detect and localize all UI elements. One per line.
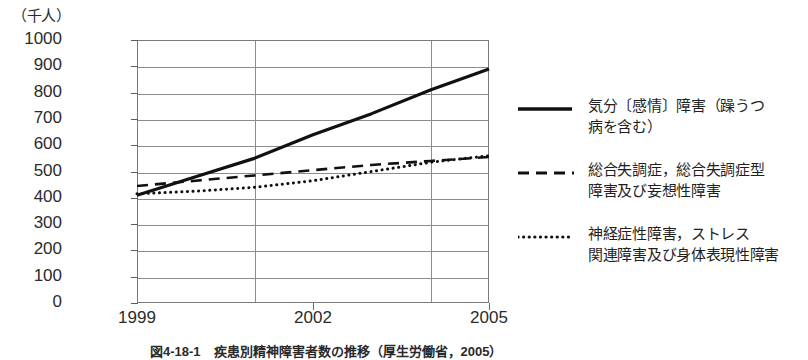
figure-caption: 図4-18-1 疾患別精神障害者数の推移（厚生労働省，2005） bbox=[150, 341, 790, 360]
legend-row: 気分〔感情〕障害（躁うつ 病を含む） bbox=[515, 95, 808, 137]
y-axis-tick-label: 500 bbox=[4, 161, 62, 181]
y-axis-tick-label: 300 bbox=[4, 213, 62, 233]
series-line-dotted bbox=[137, 156, 489, 194]
x-axis-tick-mark bbox=[313, 303, 314, 310]
legend-label: 気分〔感情〕障害（躁うつ 病を含む） bbox=[588, 95, 808, 137]
legend-row: 神経症性障害，ストレス 関連障害及び身体表現性障害 bbox=[515, 223, 808, 265]
x-axis-tick-label: 2002 bbox=[268, 308, 358, 328]
y-axis-tick-label: 1000 bbox=[4, 29, 62, 49]
x-axis-tick-label: 1999 bbox=[92, 308, 182, 328]
y-axis-tick-mark bbox=[131, 303, 138, 304]
y-axis-tick-label: 200 bbox=[4, 239, 62, 259]
plot-wrapper: 10009008007006005004003002001000 1999200… bbox=[0, 0, 520, 330]
y-axis-tick-label: 900 bbox=[4, 55, 62, 75]
legend-label: 神経症性障害，ストレス 関連障害及び身体表現性障害 bbox=[588, 223, 808, 265]
series-line-solid bbox=[137, 69, 489, 195]
dashed-line-sample bbox=[518, 168, 574, 180]
solid-line-sample bbox=[518, 104, 574, 116]
chart-legend: 気分〔感情〕障害（躁うつ 病を含む）総合失調症，総合失調症型 障害及び妄想性障害… bbox=[515, 95, 808, 287]
y-axis-tick-label: 700 bbox=[4, 108, 62, 128]
y-axis-tick-label: 400 bbox=[4, 187, 62, 207]
dotted-line-sample bbox=[518, 232, 574, 244]
data-series-layer bbox=[137, 40, 489, 303]
legend-row: 総合失調症，総合失調症型 障害及び妄想性障害 bbox=[515, 159, 808, 201]
y-axis-tick-label: 800 bbox=[4, 82, 62, 102]
y-axis-tick-label: 0 bbox=[4, 292, 62, 312]
y-axis-tick-label: 600 bbox=[4, 134, 62, 154]
legend-label: 総合失調症，総合失調症型 障害及び妄想性障害 bbox=[588, 159, 808, 201]
x-axis-tick-mark bbox=[489, 303, 490, 310]
y-axis-tick-label: 100 bbox=[4, 266, 62, 286]
x-axis-tick-label: 2005 bbox=[444, 308, 534, 328]
